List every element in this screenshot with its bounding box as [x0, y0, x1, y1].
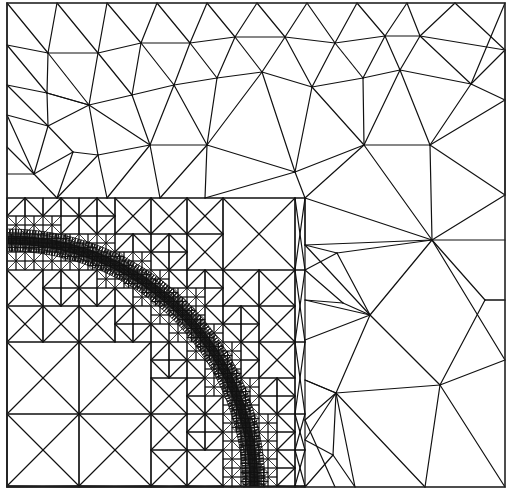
mesh-canvas [0, 0, 509, 503]
mesh-figure [0, 0, 509, 503]
